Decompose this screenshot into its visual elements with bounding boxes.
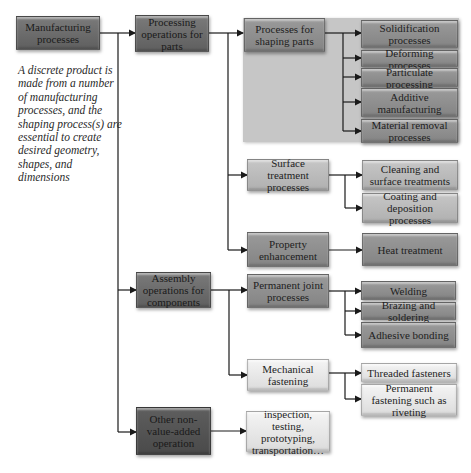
leaf-deforming: Deforming processes [361, 50, 458, 67]
node-other-non-value-added: Other non-value-added operation [136, 407, 211, 455]
node-label: Surface treatment processes [250, 157, 326, 193]
leaf-label: Heat treatment [377, 244, 442, 256]
leaf-label: Brazing and soldering [364, 299, 453, 323]
node-label: Permanent joint processes [250, 279, 326, 303]
leaf-adhesive: Adhesive bonding [361, 322, 456, 348]
node-property-enhancement: Property enhancement [247, 232, 329, 267]
leaf-label: Cleaning and surface treatments [365, 163, 455, 187]
leaf-label: Threaded fasteners [367, 367, 450, 379]
leaf-label: Coating and deposition processes [365, 190, 455, 226]
leaf-label: inspection, testing, prototyping, transp… [249, 408, 327, 456]
leaf-label: Particulate processing [364, 66, 455, 90]
node-label: Processing operations for parts [138, 16, 206, 52]
node-mechanical-fastening: Mechanical fastening [247, 359, 329, 391]
leaf-label: Adhesive bonding [368, 329, 448, 341]
node-surface-treatment: Surface treatment processes [247, 159, 329, 191]
leaf-label: Solidification processes [364, 22, 455, 46]
leaf-coating: Coating and deposition processes [362, 193, 458, 223]
node-label: Processes for shaping parts [247, 23, 322, 47]
leaf-welding: Welding [361, 281, 456, 300]
node-assembly-operations: Assembly operations for components [136, 272, 211, 308]
leaf-cleaning: Cleaning and surface treatments [362, 160, 458, 190]
node-label: Manufacturing processes [19, 21, 97, 45]
node-manufacturing-processes: Manufacturing processes [16, 16, 100, 50]
leaf-heat-treatment: Heat treatment [362, 233, 458, 266]
node-label: Property enhancement [250, 238, 326, 262]
leaf-additive: Additive manufacturing [361, 88, 458, 117]
node-shaping-parts: Processes for shaping parts [244, 18, 325, 52]
node-label: Mechanical fastening [250, 363, 326, 387]
leaf-label: Material removal processes [364, 119, 455, 143]
leaf-solidification: Solidification processes [361, 20, 458, 48]
description-text: A discrete product is made from a number… [18, 64, 124, 185]
leaf-inspection: inspection, testing, prototyping, transp… [246, 411, 330, 452]
leaf-brazing: Brazing and soldering [361, 302, 456, 320]
leaf-permanent-fastening: Permanent fastening such as riveting [361, 384, 457, 416]
node-label: Assembly operations for components [139, 272, 208, 308]
node-permanent-joint: Permanent joint processes [247, 274, 329, 308]
leaf-material-removal: Material removal processes [361, 119, 458, 143]
leaf-particulate: Particulate processing [361, 68, 458, 87]
leaf-label: Permanent fastening such as riveting [364, 382, 454, 418]
leaf-label: Additive manufacturing [364, 91, 455, 115]
leaf-label: Welding [390, 285, 427, 297]
manufacturing-diagram: Manufacturing processes A discrete produ… [0, 0, 471, 473]
node-processing-operations: Processing operations for parts [135, 15, 209, 52]
node-label: Other non-value-added operation [139, 413, 208, 449]
leaf-threaded-fasteners: Threaded fasteners [361, 363, 457, 382]
